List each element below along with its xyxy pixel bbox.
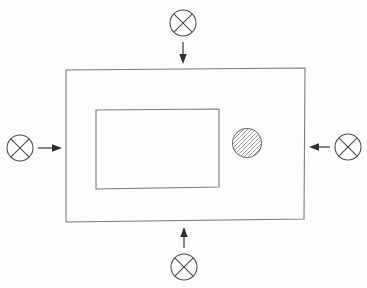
diagram-svg (0, 0, 367, 288)
diagram-canvas (0, 0, 367, 288)
